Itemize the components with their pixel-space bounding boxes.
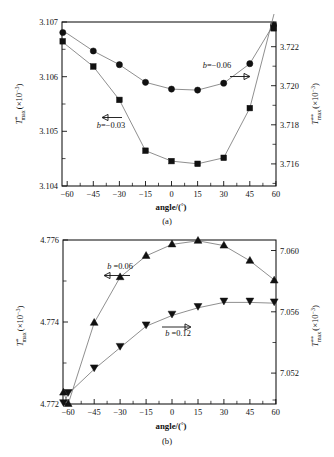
x-tick-label-b-1: −45 [88,408,101,417]
left-tick-label-b-1: 4.774 [40,318,60,327]
svg-text:T**max(×10−3): T**max(×10−3) [310,305,322,347]
right-axis-ticks-b [271,251,276,401]
left-tick-label-b-0: 4.772 [40,400,59,409]
right-tick-label-a-1: 3.718 [280,121,299,130]
left-axis-title-a: T*max(×10−3) [14,84,26,125]
left-axis-ticks-a [62,22,67,186]
x-tick-label-b-6: 30 [220,408,228,417]
right-axis-ticks-a [271,27,276,183]
annotation-a-0: b=−0.06 [203,61,231,70]
x-tick-label-a-7: 45 [246,190,254,199]
chart-panel-a: 3.104 3.105 3.106 3.107 3.716 3.718 3.72… [0,0,334,228]
x-axis-ticks-b [68,399,276,404]
x-axis-title-a: angle/(°) [156,202,187,212]
chart-b-svg: 4.772 4.774 4.776 7.052 7.056 7.060 [0,228,334,457]
x-tick-label-b-3: −15 [140,408,153,417]
chart-panel-b: 4.772 4.774 4.776 7.052 7.056 7.060 [0,228,334,457]
left-tick-label-a-2: 3.106 [39,73,58,82]
left-axis-ticks-b [63,240,68,404]
x-tick-label-b-5: 15 [194,408,202,417]
annotation-b-0: b =0.06 [107,262,133,271]
right-axis-title-b: T**max(×10−3) [310,305,322,347]
series-markers-b-pos006 [60,237,279,407]
series-line-b-neg003 [62,14,274,164]
right-tick-label-a-0: 3.716 [280,160,299,169]
left-tick-label-a-1: 3.105 [39,127,58,136]
series-line-b-pos012 [64,302,276,404]
right-axis-title-a: T**max(×10−3) [310,83,322,125]
panel-caption-a: (a) [162,216,172,226]
x-tick-label-a-4: 0 [169,190,173,199]
annotation-b-1: b =0.12 [165,329,191,338]
series-markers-b-neg006 [60,22,277,93]
annotation-b-0-arrow-left-icon [104,272,130,278]
left-axis-title-b: T*max(×10−3) [15,306,27,347]
svg-text:T**max(×10−3): T**max(×10−3) [310,83,322,125]
x-tick-label-b-0: −60 [62,408,75,417]
x-tick-label-a-1: −45 [87,190,100,199]
series-markers-b-neg003 [60,26,277,167]
svg-text:T*max(×10−3): T*max(×10−3) [14,84,26,125]
x-tick-label-a-8: 60 [272,190,280,199]
annotation-a-1-arrow-left-icon [102,114,122,120]
series-markers-b-pos012 [60,298,279,406]
annotation-a-0-arrow-right-icon [230,73,250,79]
x-tick-label-a-3: −15 [139,190,152,199]
series-line-b-neg006 [62,24,274,90]
x-tick-label-a-0: −60 [61,190,74,199]
x-tick-label-b-4: 0 [170,408,174,417]
x-tick-label-a-5: 15 [193,190,201,199]
figure-container: 3.104 3.105 3.106 3.107 3.716 3.718 3.72… [0,0,334,457]
right-tick-label-a-3: 3.722 [280,43,299,52]
chart-a-svg: 3.104 3.105 3.106 3.107 3.716 3.718 3.72… [0,0,334,228]
left-tick-label-a-3: 3.107 [39,18,58,27]
left-tick-label-b-2: 4.776 [40,236,59,245]
x-tick-label-b-7: 45 [246,408,254,417]
x-tick-label-b-8: 60 [272,408,280,417]
right-tick-label-b-1: 7.056 [280,308,299,317]
annotation-a-1: b=−0.03 [97,121,125,130]
x-axis-title-b: angle/(°) [156,421,187,431]
svg-text:T*max(×10−3): T*max(×10−3) [15,306,27,347]
right-tick-label-b-2: 7.060 [280,247,299,256]
x-tick-label-a-2: −30 [113,190,126,199]
panel-caption-b: (b) [162,436,172,446]
right-tick-label-a-2: 3.720 [280,82,299,91]
left-tick-label-a-0: 3.104 [39,182,59,191]
x-axis-ticks-a [67,181,276,186]
x-tick-label-b-2: −30 [114,408,127,417]
x-tick-label-a-6: 30 [220,190,228,199]
right-tick-label-b-0: 7.052 [280,369,299,378]
